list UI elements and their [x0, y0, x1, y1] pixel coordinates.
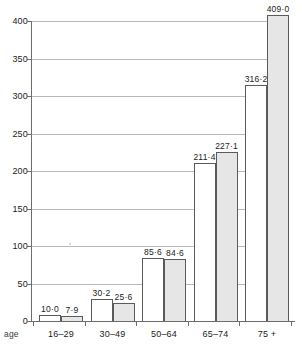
x-axis-tick [239, 321, 240, 326]
bar-chart: 050100150200250300350400 10·07·930·225·6… [0, 0, 302, 353]
x-axis-tick [188, 321, 189, 326]
y-axis-tick-label: 350 [0, 54, 28, 64]
bar[interactable]: 85·6 [142, 258, 164, 322]
bar[interactable]: 30·2 [91, 299, 113, 322]
x-axis-tick-label: 65–74 [202, 329, 228, 339]
x-axis-tick-label: 30–49 [99, 329, 125, 339]
y-axis-tick-label: 400 [0, 16, 28, 26]
bar-value-label: 7·9 [66, 305, 79, 315]
y-axis-tick-label: 250 [0, 129, 28, 139]
bar-group: 30·225·6 [91, 10, 135, 322]
bar-group: 10·07·9 [39, 10, 83, 322]
y-axis-tick-label: 300 [0, 91, 28, 101]
bar[interactable]: 25·6 [113, 303, 135, 322]
bar-value-label: 10·0 [41, 304, 59, 314]
bar-value-label: 409·0 [267, 4, 290, 14]
bar-value-label: 227·1 [215, 141, 238, 151]
bars-layer: 10·07·930·225·685·684·6211·4227·1316·240… [31, 10, 295, 322]
bar-value-label: 211·4 [193, 152, 215, 162]
bar-group: 85·684·6 [142, 10, 186, 322]
bar[interactable]: 211·4 [194, 163, 216, 322]
y-axis-tick-label: 200 [0, 166, 28, 176]
bar-value-label: 85·6 [144, 247, 162, 257]
bar-group: 316·2409·0 [245, 10, 289, 322]
x-axis-labels: 16–2930–4950–6465–7475 + [0, 329, 302, 349]
bar[interactable]: 409·0 [267, 15, 289, 322]
y-axis-tick-label: 100 [0, 241, 28, 251]
x-axis-tick-label: 16–29 [48, 329, 74, 339]
x-axis-tick [291, 321, 292, 326]
y-axis-tick-label: 0 [0, 316, 28, 326]
bar-value-label: 316·2 [245, 74, 268, 84]
x-axis-tick-label: 75 + [258, 329, 277, 339]
y-axis-tick-label: 150 [0, 204, 28, 214]
bar[interactable]: 84·6 [164, 259, 186, 322]
x-axis-tick [85, 321, 86, 326]
bar-value-label: 84·6 [166, 248, 184, 258]
x-axis-line [31, 321, 295, 322]
x-axis-tick [136, 321, 137, 326]
x-axis-tick [33, 321, 34, 326]
y-axis-tick-label: 50 [0, 279, 28, 289]
bar-value-label: 25·6 [115, 292, 133, 302]
bar[interactable]: 316·2 [245, 85, 267, 322]
bar[interactable]: 227·1 [216, 152, 238, 322]
plot-area: 10·07·930·225·685·684·6211·4227·1316·240… [31, 10, 295, 322]
bar-value-label: 30·2 [93, 288, 111, 298]
paper-speck [69, 243, 71, 245]
bar-group: 211·4227·1 [194, 10, 238, 322]
y-axis-labels: 050100150200250300350400 [0, 10, 28, 322]
x-axis-tick-label: 50–64 [151, 329, 177, 339]
